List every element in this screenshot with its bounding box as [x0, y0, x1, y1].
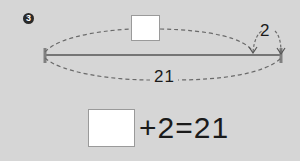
- problem-3: 3 2 21 +2=21: [0, 0, 300, 161]
- total-arc-left: [45, 58, 150, 80]
- part-label: 2: [260, 21, 269, 41]
- problem-number-badge: 3: [23, 13, 34, 24]
- total-arc-right: [175, 58, 281, 80]
- unknown-arc-right: [160, 29, 253, 52]
- answer-input-box[interactable]: [88, 109, 135, 147]
- equation-text: +2=21: [139, 111, 229, 145]
- total-label: 21: [151, 67, 178, 87]
- equation: +2=21: [88, 110, 229, 146]
- unknown-value-box[interactable]: [131, 15, 160, 41]
- unknown-arc-left: [45, 29, 131, 52]
